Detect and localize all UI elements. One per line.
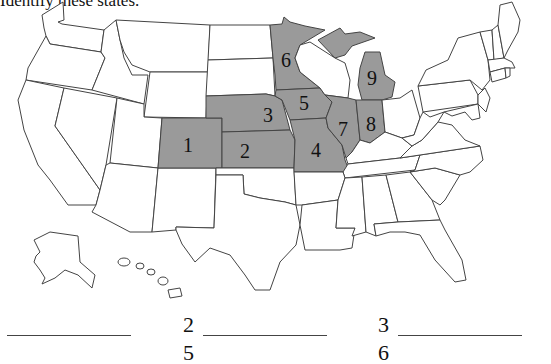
- state-new-york: [418, 32, 490, 90]
- us-map: 1 2 3 4 5 6 7 8 9: [0, 0, 551, 300]
- answer-line[interactable]: [203, 335, 327, 336]
- state-hawaii-island-4: [158, 277, 168, 285]
- answer-number: 2: [183, 314, 203, 336]
- state-alaska: [34, 232, 95, 288]
- state-label-1: 1: [183, 134, 193, 156]
- state-label-5: 5: [299, 92, 309, 114]
- state-label-4: 4: [311, 139, 321, 161]
- state-south-dakota: [206, 58, 275, 96]
- state-new-mexico: [152, 168, 216, 232]
- state-label-2: 2: [240, 140, 250, 162]
- state-hawaii-island-1: [118, 258, 130, 266]
- state-new-jersey: [478, 88, 490, 112]
- answer-blank-6[interactable]: 6: [378, 340, 398, 364]
- state-florida: [374, 220, 466, 282]
- state-label-9: 9: [367, 67, 377, 89]
- answer-blank-3[interactable]: 3: [378, 312, 522, 336]
- state-rhode-island: [505, 68, 510, 78]
- answer-number: 6: [378, 342, 398, 364]
- state-kansas: [222, 130, 295, 168]
- state-label-8: 8: [366, 113, 376, 135]
- answer-blank-1[interactable]: [7, 312, 131, 336]
- state-hawaii-island-2: [136, 263, 144, 269]
- state-label-3: 3: [263, 104, 273, 126]
- answer-line[interactable]: [398, 335, 522, 336]
- answer-blank-5[interactable]: 5: [183, 340, 203, 364]
- state-label-6: 6: [281, 49, 291, 71]
- state-north-dakota: [208, 25, 273, 60]
- state-wyoming: [144, 72, 208, 118]
- state-label-7: 7: [338, 118, 348, 140]
- state-hawaii-island-5: [168, 288, 182, 298]
- answer-blank-2[interactable]: 2: [183, 312, 327, 336]
- state-hawaii-island-3: [147, 269, 155, 275]
- answer-line[interactable]: [7, 335, 131, 336]
- answer-number: 3: [378, 314, 398, 336]
- answer-number: 5: [183, 342, 203, 364]
- state-montana: [116, 20, 210, 72]
